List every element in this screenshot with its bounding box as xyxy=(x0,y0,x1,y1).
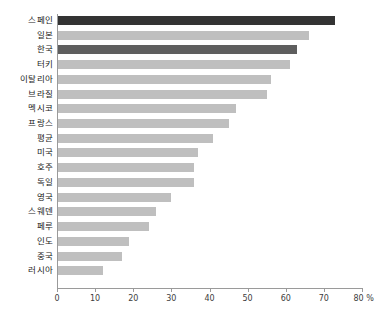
x-tick xyxy=(95,288,96,292)
bar-미국 xyxy=(57,148,198,157)
category-label: 독일 xyxy=(37,177,53,187)
x-tick-label: 50 xyxy=(243,294,253,303)
y-axis-line xyxy=(57,14,58,289)
category-label: 평균 xyxy=(37,133,53,143)
category-label: 미국 xyxy=(37,147,53,157)
x-tick-label: 30 xyxy=(166,294,176,303)
x-tick-label: 20 xyxy=(128,294,138,303)
bar-중국 xyxy=(57,252,122,261)
bar-멕시코 xyxy=(57,104,236,113)
category-label: 이탈리아 xyxy=(20,74,53,84)
x-tick-label: 40 xyxy=(204,294,214,303)
x-tick-label: 10 xyxy=(90,294,100,303)
x-tick xyxy=(324,288,325,292)
bar-러시아 xyxy=(57,266,103,275)
category-label: 영국 xyxy=(37,192,53,202)
bar-chart: 스페인일본한국터키이탈리아브라질멕시코프랑스평균미국호주독일영국스웨덴페루인도중… xyxy=(0,0,388,331)
bar-호주 xyxy=(57,163,194,172)
bar-영국 xyxy=(57,193,171,202)
category-label: 터키 xyxy=(37,59,53,69)
bar-페루 xyxy=(57,222,149,231)
category-label: 호주 xyxy=(37,162,53,172)
x-tick-label: 60 xyxy=(281,294,291,303)
category-label: 러시아 xyxy=(28,265,53,275)
plot-area: 스페인일본한국터키이탈리아브라질멕시코프랑스평균미국호주독일영국스웨덴페루인도중… xyxy=(0,0,388,331)
category-label: 멕시코 xyxy=(28,103,53,113)
bar-한국 xyxy=(57,45,297,54)
bar-터키 xyxy=(57,60,290,69)
x-tick-label: 70 xyxy=(319,294,329,303)
category-label: 스페인 xyxy=(28,15,53,25)
bar-이탈리아 xyxy=(57,75,271,84)
bar-프랑스 xyxy=(57,119,229,128)
x-tick xyxy=(210,288,211,292)
x-tick-label: 0 xyxy=(54,294,59,303)
bar-스웨덴 xyxy=(57,207,156,216)
category-label: 한국 xyxy=(37,44,53,54)
x-tick xyxy=(57,288,58,292)
x-tick xyxy=(133,288,134,292)
category-label: 스웨덴 xyxy=(28,206,53,216)
category-label: 페루 xyxy=(37,221,53,231)
x-tick xyxy=(248,288,249,292)
x-tick xyxy=(286,288,287,292)
bar-스페인 xyxy=(57,16,335,25)
category-label: 중국 xyxy=(37,251,53,261)
category-label: 인도 xyxy=(37,236,53,246)
bar-일본 xyxy=(57,31,309,40)
x-tick xyxy=(362,288,363,292)
category-label: 프랑스 xyxy=(28,118,53,128)
x-tick-label: 80 % xyxy=(353,294,373,303)
bar-브라질 xyxy=(57,90,267,99)
bar-독일 xyxy=(57,178,194,187)
category-label: 브라질 xyxy=(28,89,53,99)
bar-인도 xyxy=(57,237,129,246)
x-tick xyxy=(171,288,172,292)
category-label: 일본 xyxy=(37,30,53,40)
bar-평균 xyxy=(57,134,213,143)
